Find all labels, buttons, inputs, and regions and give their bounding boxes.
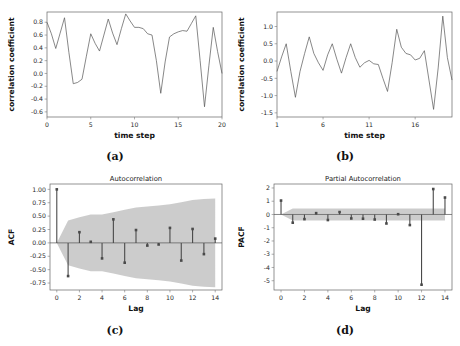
x-tick-label: 14 — [211, 294, 219, 301]
y-tick-label: 0.5 — [263, 40, 273, 47]
y-tick-label: 0.75 — [32, 199, 46, 206]
stem-marker — [280, 199, 283, 202]
x-tick-label: 5 — [89, 121, 93, 128]
stem-marker — [420, 283, 423, 286]
plot-frame — [274, 184, 452, 290]
x-tick-label: 0 — [279, 294, 283, 301]
stem-marker — [123, 261, 126, 264]
x-axis-title: time step — [114, 131, 155, 140]
panel-c-plot: Autocorrelation-0.75-0.50-0.250.000.250.… — [0, 168, 230, 326]
y-tick-label: 0.6 — [33, 31, 43, 38]
stem-marker — [169, 227, 172, 230]
x-tick-label: 6 — [321, 121, 325, 128]
x-tick-label: 8 — [145, 294, 149, 301]
y-tick-label: -0.4 — [31, 95, 43, 102]
stem-marker — [157, 243, 160, 246]
panel-a-plot: -0.6-0.4-0.20.00.20.40.60.805101520time … — [0, 0, 230, 152]
stem-marker — [78, 231, 81, 234]
y-tick-label: -2 — [264, 237, 270, 244]
x-tick-label: 11 — [365, 121, 373, 128]
x-axis-title: Lag — [128, 304, 143, 313]
plot-frame — [47, 12, 222, 117]
x-tick-label: 12 — [189, 294, 197, 301]
x-axis-title: time step — [344, 131, 385, 140]
y-tick-label: 1 — [266, 197, 270, 204]
stem-marker — [409, 224, 412, 227]
panel-d-pacf-chart: Partial Autocorrelation-5-4-3-2-10120246… — [230, 168, 460, 346]
y-axis-title: correlation coefficient — [7, 17, 16, 112]
plot-title: Autocorrelation — [110, 175, 162, 183]
x-tick-label: 4 — [100, 294, 104, 301]
y-tick-label: -0.75 — [30, 279, 46, 286]
x-tick-label: 4 — [326, 294, 330, 301]
x-axis-title: Lag — [355, 304, 370, 313]
x-tick-label: 2 — [77, 294, 81, 301]
y-tick-label: -0.25 — [30, 252, 46, 259]
stem-marker — [373, 218, 376, 221]
stem-marker — [362, 217, 365, 220]
x-tick-label: 2 — [302, 294, 306, 301]
x-tick-label: 10 — [166, 294, 174, 301]
y-tick-label: -0.2 — [31, 82, 43, 89]
panel-d-caption: (d) — [230, 324, 460, 337]
x-tick-label: 10 — [131, 121, 139, 128]
stem-marker — [444, 196, 447, 199]
stem-marker — [180, 259, 183, 262]
x-tick-label: 6 — [349, 294, 353, 301]
figure-container: -0.6-0.4-0.20.00.20.40.60.805101520time … — [0, 0, 460, 346]
stem-marker — [203, 253, 206, 256]
stem-marker — [385, 222, 388, 225]
y-tick-label: 0.0 — [263, 57, 273, 64]
y-tick-label: -3 — [264, 250, 270, 257]
y-tick-label: 1.0 — [263, 23, 273, 30]
stem-marker — [327, 219, 330, 222]
x-tick-label: 1 — [275, 121, 279, 128]
y-axis-title: PACF — [237, 226, 246, 248]
x-tick-label: 12 — [418, 294, 426, 301]
stem-marker — [55, 188, 58, 191]
y-tick-label: 0.2 — [33, 57, 43, 64]
panel-a-line-chart: -0.6-0.4-0.20.00.20.40.60.805101520time … — [0, 0, 230, 173]
x-tick-label: 15 — [174, 121, 182, 128]
stem-marker — [89, 241, 92, 244]
x-tick-label: 8 — [373, 294, 377, 301]
stem-marker — [112, 218, 115, 221]
y-tick-label: -1 — [264, 224, 270, 231]
plot-frame — [277, 12, 452, 117]
y-tick-label: -0.50 — [30, 266, 46, 273]
stem-marker — [315, 212, 318, 215]
x-tick-label: 20 — [218, 121, 226, 128]
panel-c-caption: (c) — [0, 324, 230, 337]
y-tick-label: 0.8 — [33, 18, 43, 25]
data-series-line — [277, 16, 452, 109]
y-tick-label: 1.00 — [32, 186, 46, 193]
stem-marker — [101, 257, 104, 260]
y-tick-label: -1.0 — [261, 92, 273, 99]
stem-marker — [303, 218, 306, 221]
y-tick-label: 2 — [266, 184, 270, 191]
x-tick-label: 16 — [411, 121, 419, 128]
stem-marker — [350, 217, 353, 220]
y-tick-label: -0.6 — [31, 108, 43, 115]
x-tick-label: 0 — [45, 121, 49, 128]
stem-marker — [135, 229, 138, 232]
y-tick-label: 0.0 — [33, 70, 43, 77]
x-tick-label: 10 — [394, 294, 402, 301]
panel-b-caption: (b) — [230, 150, 460, 163]
panel-b-line-chart: -1.5-1.0-0.50.00.51.0161116time stepcorr… — [230, 0, 460, 173]
y-tick-label: -4 — [264, 264, 270, 271]
y-tick-label: -0.5 — [261, 75, 273, 82]
stem-marker — [291, 221, 294, 224]
stem-marker — [397, 213, 400, 216]
x-tick-label: 6 — [123, 294, 127, 301]
y-tick-label: 0.00 — [32, 239, 46, 246]
panel-d-plot: Partial Autocorrelation-5-4-3-2-10120246… — [230, 168, 460, 326]
plot-title: Partial Autocorrelation — [325, 175, 401, 183]
stem-marker — [67, 275, 70, 278]
y-tick-label: -1.5 — [261, 109, 273, 116]
stem-marker — [214, 237, 217, 240]
x-tick-label: 0 — [55, 294, 59, 301]
y-tick-label: 0.50 — [32, 212, 46, 219]
panel-c-acf-chart: Autocorrelation-0.75-0.50-0.250.000.250.… — [0, 168, 230, 346]
y-axis-title: correlation coefficient — [237, 17, 246, 112]
